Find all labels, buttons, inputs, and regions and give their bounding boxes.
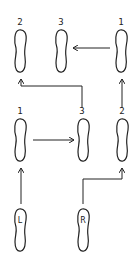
footprint-top-2 [15, 30, 26, 72]
label-top-2: 2 [14, 17, 26, 27]
arrow-R-to-mid2 [83, 168, 122, 204]
label-mid-3: 3 [76, 106, 88, 116]
footprint-mid-3 [78, 119, 89, 161]
label-top-3: 3 [55, 17, 67, 27]
label-mid-2: 2 [116, 106, 128, 116]
footprint-top-1 [116, 30, 127, 72]
footprint-top-3 [56, 30, 67, 72]
footprint-mid-1 [15, 119, 26, 161]
arrow-mid3-to-top2 [21, 79, 82, 108]
label-mid-1: 1 [14, 106, 26, 116]
label-left-foot: L [15, 216, 25, 225]
label-top-1: 1 [115, 17, 127, 27]
footprint-mid-2 [117, 119, 128, 161]
label-right-foot: R [78, 216, 88, 225]
